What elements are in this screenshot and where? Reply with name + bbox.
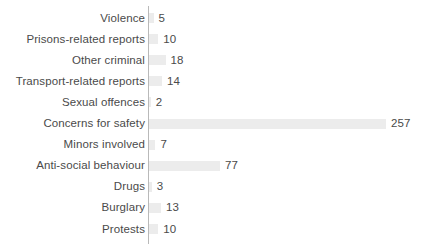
value-label: 3 <box>157 176 164 197</box>
bar <box>149 203 161 213</box>
bar-row: Sexual offences2 <box>0 92 425 113</box>
value-label: 7 <box>160 134 167 155</box>
category-label: Drugs <box>5 176 145 197</box>
bar-row: Anti-social behaviour77 <box>0 155 425 176</box>
bar <box>149 161 220 171</box>
value-label: 2 <box>156 92 163 113</box>
bar-row: Prisons-related reports10 <box>0 29 425 50</box>
value-label: 13 <box>166 197 179 218</box>
bar <box>149 119 386 129</box>
bar <box>149 97 151 107</box>
value-label: 18 <box>171 50 184 71</box>
bar <box>149 55 166 65</box>
category-label: Anti-social behaviour <box>5 155 145 176</box>
category-label: Prisons-related reports <box>5 29 145 50</box>
category-label: Transport-related reports <box>5 71 145 92</box>
bar <box>149 140 155 150</box>
bar-row: Other criminal18 <box>0 50 425 71</box>
bar <box>149 182 152 192</box>
category-label: Minors involved <box>5 134 145 155</box>
value-label: 10 <box>163 219 176 240</box>
value-label: 10 <box>163 29 176 50</box>
value-label: 77 <box>225 155 238 176</box>
bar-row: Protests10 <box>0 219 425 240</box>
category-label: Violence <box>5 8 145 29</box>
bar-row: Burglary13 <box>0 197 425 218</box>
bar-row: Minors involved7 <box>0 134 425 155</box>
bar-chart: Violence5Prisons-related reports10Other … <box>0 0 425 251</box>
category-label: Sexual offences <box>5 92 145 113</box>
category-label: Burglary <box>5 197 145 218</box>
value-label: 257 <box>391 113 411 134</box>
bar <box>149 34 158 44</box>
category-label: Concerns for safety <box>5 113 145 134</box>
bar-row: Transport-related reports14 <box>0 71 425 92</box>
category-label: Protests <box>5 219 145 240</box>
bar <box>149 76 162 86</box>
bar-row: Drugs3 <box>0 176 425 197</box>
bar-row: Violence5 <box>0 8 425 29</box>
bar <box>149 13 154 23</box>
value-label: 5 <box>159 8 166 29</box>
bar <box>149 224 158 234</box>
category-label: Other criminal <box>5 50 145 71</box>
value-label: 14 <box>167 71 180 92</box>
bar-row: Concerns for safety257 <box>0 113 425 134</box>
